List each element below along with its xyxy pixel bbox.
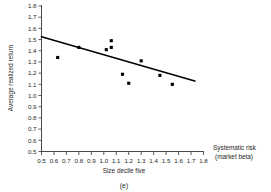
y-tick-label: 1.7 [28,13,37,20]
y-tick-label: 1.2 [28,69,37,76]
x-tick-label: 0.5 [37,157,46,164]
x-tick-label: 0.6 [50,157,59,164]
y-tick-label: 1.8 [28,2,37,9]
x-tick-label: 1.7 [187,157,196,164]
regression-fit-line [42,37,195,81]
x-axis-title: Size decile five [103,167,146,174]
data-point [158,74,161,77]
y-tick-label: 1.6 [28,25,37,32]
scatter-plot-svg: 0.50.60.70.80.91.01.11.21.31.41.51.61.71… [0,0,271,192]
y-axis-title: Average realized return [7,44,15,111]
y-tick-label: 0.8 [28,114,37,121]
x-tick-label: 0.8 [75,157,84,164]
x-tick-label: 1.0 [100,157,109,164]
data-point [105,48,108,51]
x-tick-label: 1.2 [124,157,133,164]
y-tick-label: 1.5 [28,36,37,43]
data-point [127,82,130,85]
x-axis-ticks: 0.50.60.70.80.91.01.11.21.31.41.51.61.71… [37,152,208,164]
panel-label: (e) [120,182,129,190]
x-tick-label: 1.8 [199,157,208,164]
x-tick-label: 1.1 [112,157,121,164]
x-axis-annotation-line1: Systematic risk [213,144,257,152]
y-tick-label: 0.7 [28,125,37,132]
x-tick-label: 1.6 [174,157,183,164]
data-point [171,83,174,86]
data-point [140,59,143,62]
x-axis-annotation-line2: (market beta) [215,153,253,161]
data-point [56,56,59,59]
data-point [110,46,113,49]
y-tick-label: 0.5 [28,148,37,155]
data-point [110,39,113,42]
x-tick-label: 0.7 [62,157,71,164]
y-axis-ticks: 0.50.60.70.80.91.01.11.21.31.41.51.61.71… [28,2,42,155]
y-tick-label: 1.4 [28,47,37,54]
y-tick-label: 0.6 [28,137,37,144]
x-tick-label: 0.9 [87,157,96,164]
x-tick-label: 1.5 [162,157,171,164]
data-point [121,73,124,76]
y-tick-label: 1.0 [28,92,37,99]
x-tick-label: 1.4 [149,157,158,164]
y-tick-label: 1.1 [28,81,37,88]
y-tick-label: 1.3 [28,58,37,65]
x-tick-label: 1.3 [137,157,146,164]
chart-figure: 0.50.60.70.80.91.01.11.21.31.41.51.61.71… [0,0,271,192]
y-tick-label: 0.9 [28,103,37,110]
